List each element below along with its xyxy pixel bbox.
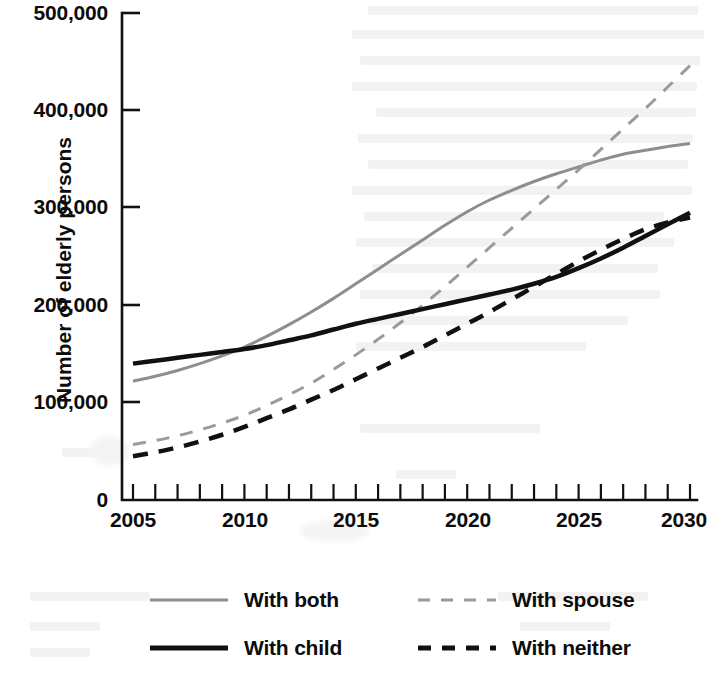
legend-entry-with-spouse[interactable]: With spouse [418,588,686,612]
y-tick-label-500000: 500,000 [0,1,108,25]
legend-label-with-child: With child [244,636,342,660]
legend-entry-with-child[interactable]: With child [150,636,418,660]
x-axis-ticks [133,484,690,500]
x-tick-label-2015: 2015 [333,508,379,532]
series-line-with-both [133,144,690,382]
legend-label-with-neither: With neither [512,636,631,660]
y-axis-title: Number of elderly persons [52,105,76,435]
legend-entry-with-both[interactable]: With both [150,588,418,612]
chart-plot-area [0,0,709,520]
legend-row: With child With neither [150,624,695,672]
legend-swatch-with-child [150,641,228,655]
chart-legend: With both With spouse With child With [150,576,695,672]
x-tick-label-2025: 2025 [556,508,602,532]
chart-series-layer [133,66,690,457]
x-tick-label-2010: 2010 [222,508,268,532]
x-tick-label-2030: 2030 [661,508,707,532]
x-tick-label-2005: 2005 [110,508,156,532]
y-tick-label-0: 0 [0,488,108,512]
y-axis-ticks [122,13,140,402]
series-line-with-child [133,213,690,364]
x-tick-label-2020: 2020 [445,508,491,532]
line-chart-figure: 500,000 400,000 300,000 200,000 100,000 … [0,0,709,677]
legend-row: With both With spouse [150,576,695,624]
legend-entry-with-neither[interactable]: With neither [418,636,686,660]
legend-label-with-both: With both [244,588,339,612]
series-line-with-neither [133,218,690,457]
legend-swatch-with-both [150,593,228,607]
legend-swatch-with-neither [418,641,496,655]
legend-label-with-spouse: With spouse [512,588,634,612]
legend-swatch-with-spouse [418,593,496,607]
